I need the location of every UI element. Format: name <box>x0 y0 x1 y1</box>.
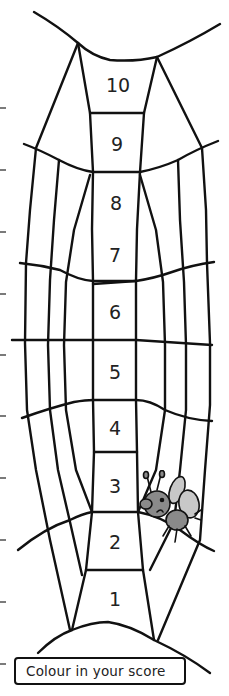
score-cell-3[interactable]: 3 <box>93 466 137 506</box>
score-cell-7[interactable]: 7 <box>93 236 137 274</box>
score-cell-2[interactable]: 2 <box>90 522 140 562</box>
score-cell-9[interactable]: 9 <box>93 124 141 164</box>
score-cell-4[interactable]: 4 <box>93 409 137 447</box>
top-anchor-thread <box>34 12 220 61</box>
score-cell-8[interactable]: 8 <box>93 183 139 223</box>
margin-ticks <box>0 108 6 664</box>
instruction-label: Colour in your score <box>14 657 186 685</box>
score-cell-6[interactable]: 6 <box>93 292 137 332</box>
score-cell-1[interactable]: 1 <box>86 580 144 618</box>
fly-icon <box>135 470 207 550</box>
radial-thread <box>25 43 78 630</box>
score-cell-10[interactable]: 10 <box>93 65 143 105</box>
score-cell-5[interactable]: 5 <box>93 352 137 392</box>
